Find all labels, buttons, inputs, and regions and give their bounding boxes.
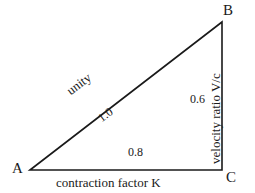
vertex-label-c: C	[226, 170, 236, 185]
vertex-label-a: A	[12, 161, 23, 176]
vertical-value-label: 0.6	[190, 93, 205, 105]
right-axis-caption: velocity ratio V/c	[209, 73, 222, 164]
velocity-triangle-figure: A B C unity 1.0 0.8 0.6 contraction fact…	[0, 0, 255, 193]
bottom-axis-caption: contraction factor K	[56, 176, 161, 189]
base-value-label: 0.8	[128, 146, 143, 158]
vertex-label-b: B	[223, 3, 233, 18]
